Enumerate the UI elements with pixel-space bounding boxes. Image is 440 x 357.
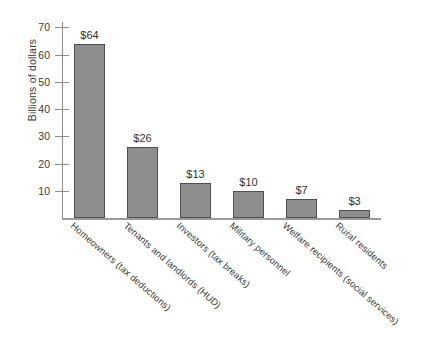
y-axis-tick-label: 60 [20,49,50,61]
bar: $64 [74,44,105,218]
y-axis-tick-label: 70 [20,21,50,33]
x-axis-category-labels: Homeowners (tax deductions)Tenants and l… [0,220,440,357]
bar-group: $3 [339,210,370,218]
y-axis-tick-label: 40 [20,103,50,115]
x-axis-category-label: Welfare recipients (social services) [281,220,402,327]
bar: $13 [180,183,211,218]
x-axis-category-label: Rural residents [334,220,391,271]
bar: $3 [339,210,370,218]
y-axis-tick-label: 50 [20,76,50,88]
y-axis-tick-label: 10 [20,185,50,197]
bar: $26 [127,147,158,218]
bar-group: $26 [127,147,158,218]
bar-group: $64 [74,44,105,218]
bar-value-label: $13 [186,168,204,180]
bar-value-label: $3 [348,195,360,207]
bar-value-label: $26 [133,132,151,144]
x-axis-category-label: Tenants and landlords (HUD) [122,220,224,310]
bar-group: $10 [233,191,264,218]
bar-value-label: $64 [80,29,98,41]
y-axis-tick-label: 20 [20,158,50,170]
bar-value-label: $7 [295,184,307,196]
bar-group: $13 [180,183,211,218]
plot-area: $64$26$13$10$7$3 [62,22,381,218]
bar-group: $7 [286,199,317,218]
x-axis-category-label: Homeowners (tax deductions) [69,220,174,313]
y-axis-tick-label: 30 [20,130,50,142]
bar-chart: Billions of dollars 10203040506070 $64$2… [0,0,440,357]
bar: $7 [286,199,317,218]
bar: $10 [233,191,264,218]
bar-value-label: $10 [239,176,257,188]
